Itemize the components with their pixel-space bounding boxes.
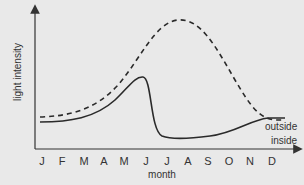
outside-label: outside — [265, 121, 298, 132]
x-tick-labels: J F M A M J J A S O N D — [39, 155, 276, 167]
x-tick-label: J — [143, 155, 149, 167]
x-tick-label: J — [164, 155, 170, 167]
outside-series-line — [40, 20, 282, 120]
x-tick-label: D — [268, 155, 276, 167]
x-tick-label: M — [79, 155, 88, 167]
x-tick-label: S — [204, 155, 211, 167]
x-tick-label: A — [184, 155, 192, 167]
x-tick-label: M — [119, 155, 128, 167]
x-tick-label: F — [59, 155, 66, 167]
x-tick-label: O — [225, 155, 234, 167]
inside-series-line — [40, 77, 285, 138]
inside-label: inside — [271, 135, 298, 146]
x-tick-label: J — [39, 155, 45, 167]
x-axis-label: month — [148, 169, 176, 180]
y-axis-label: light intensity — [12, 43, 23, 101]
line-chart: outside inside J F M A M J J A S O N D m… — [0, 0, 304, 185]
x-tick-label: A — [100, 155, 108, 167]
x-tick-label: N — [246, 155, 254, 167]
chart-canvas: outside inside J F M A M J J A S O N D m… — [0, 0, 304, 185]
